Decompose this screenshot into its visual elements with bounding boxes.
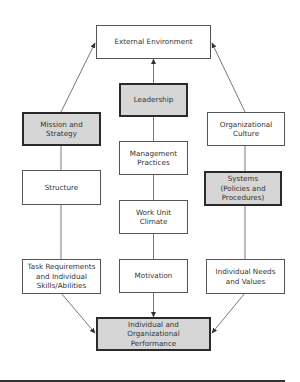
node-motivation: Motivation — [119, 259, 188, 293]
node-individual-needs-and-values: Individual Needs and Values — [206, 259, 285, 294]
edge-needs-to-performance — [212, 293, 245, 333]
node-individual-and-organizational-performance: Individual and Organizational Performanc… — [96, 317, 211, 351]
node-organizational-culture: Organizational Culture — [207, 112, 285, 146]
performance-model-diagram: External Environment Leadership Mission … — [0, 0, 300, 382]
node-task-requirements: Task Requirements and Individual Skills/… — [22, 259, 101, 294]
node-external-environment: External Environment — [96, 25, 211, 59]
edge-culture-to-external — [212, 43, 245, 112]
edge-task-to-performance — [61, 293, 95, 333]
node-systems: Systems (Policies and Procedures) — [204, 171, 282, 206]
node-management-practices: Management Practices — [119, 141, 188, 175]
node-mission-and-strategy: Mission and Strategy — [22, 112, 101, 146]
node-work-unit-climate: Work Unit Climate — [119, 200, 188, 234]
node-leadership: Leadership — [119, 83, 188, 117]
node-structure: Structure — [22, 170, 101, 205]
edge-mission-to-external — [61, 43, 95, 112]
bottom-divider — [0, 380, 285, 382]
